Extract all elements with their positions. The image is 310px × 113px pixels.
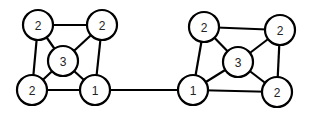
node-label: 2	[277, 24, 284, 38]
node-R_c: 3	[223, 47, 253, 77]
node-label: 2	[35, 19, 42, 33]
graph-diagram: 2232122312	[0, 0, 310, 113]
node-label: 2	[274, 86, 281, 100]
node-label: 1	[190, 84, 197, 98]
node-L_c: 3	[48, 46, 78, 76]
node-label: 2	[99, 19, 106, 33]
node-L_br: 1	[80, 75, 110, 105]
node-L_bl: 2	[17, 75, 47, 105]
node-label: 3	[235, 56, 242, 70]
node-R_tl: 2	[189, 12, 219, 42]
node-L_tl: 2	[23, 10, 53, 40]
node-label: 2	[201, 21, 208, 35]
node-R_br: 2	[262, 77, 292, 107]
node-R_tr: 2	[265, 15, 295, 45]
node-label: 3	[60, 55, 67, 69]
node-label: 2	[29, 84, 36, 98]
node-label: 1	[92, 84, 99, 98]
node-R_bl: 1	[178, 75, 208, 105]
node-L_tr: 2	[87, 10, 117, 40]
